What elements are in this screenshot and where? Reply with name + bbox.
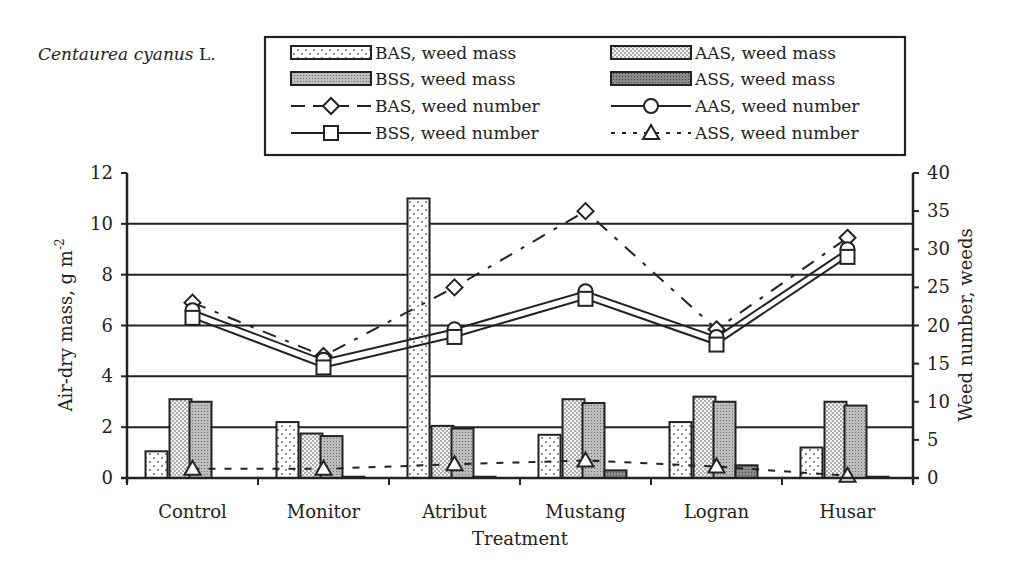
right-tick-label: 35 [927,200,950,221]
circle-marker [644,99,658,113]
legend-item: BAS, weed mass [291,43,516,63]
legend-swatch [611,72,691,85]
legend-label: BAS, weed mass [375,43,516,63]
square-marker [841,250,855,264]
legend-label: ASS, weed mass [694,69,835,89]
category-label: Monitor [287,501,361,522]
axes: 0246810120510152025303540ControlMonitorA… [53,162,976,549]
legend-swatch [291,46,371,59]
diamond-marker [447,279,463,295]
category-label: Logran [684,501,750,522]
legend-swatch [291,72,371,85]
left-tick-label: 2 [102,416,113,437]
left-tick-label: 4 [102,365,113,386]
left-tick-label: 0 [102,467,113,488]
legend-label: BSS, weed mass [375,69,515,89]
square-marker [710,338,724,352]
left-tick-label: 10 [90,213,113,234]
bar [170,399,192,478]
category-label: Control [158,501,227,522]
right-tick-label: 30 [927,238,950,259]
legend-swatch [611,46,691,59]
legend-item: AAS, weed number [611,96,860,116]
line-path [193,249,848,360]
left-tick-label: 6 [102,315,113,336]
legend: BAS, weed massAAS, weed massBSS, weed ma… [265,37,905,155]
legend-label: BAS, weed number [375,96,541,116]
right-tick-label: 15 [927,353,950,374]
square-marker [317,360,331,374]
legend-label: AAS, weed number [694,96,860,116]
category-label: Husar [820,501,876,522]
left-tick-label: 12 [90,162,113,183]
diamond-marker [578,203,594,219]
legend-item: ASS, weed mass [611,69,835,89]
bar [146,451,168,478]
combo-chart: BAS, weed massAAS, weed massBSS, weed ma… [0,0,1016,570]
square-marker [448,330,462,344]
legend-item: AAS, weed mass [611,43,836,63]
right-tick-label: 5 [927,429,938,450]
square-marker [579,292,593,306]
left-tick-label: 8 [102,264,113,285]
right-tick-label: 0 [927,467,938,488]
right-axis-title: Weed number, weeds [955,228,976,422]
right-tick-label: 25 [927,276,950,297]
right-tick-label: 10 [927,391,950,412]
line-path [193,211,848,356]
line-path [193,257,848,368]
right-tick-label: 20 [927,315,950,336]
legend-item: BSS, weed mass [291,69,515,89]
bar [825,402,847,478]
x-axis-title: Treatment [472,528,569,549]
category-label: Atribut [421,501,487,522]
bar [670,422,692,478]
left-axis-title: Air-dry mass, g m-2 [53,238,76,412]
gridlines [127,224,913,427]
square-marker [324,126,338,140]
legend-item: BSS, weed number [291,123,540,143]
bar [539,435,561,478]
bar-series [146,198,889,478]
square-marker [186,311,200,325]
legend-label: ASS, weed number [694,123,859,143]
right-tick-label: 40 [927,162,950,183]
legend-label: AAS, weed mass [694,43,836,63]
legend-label: BSS, weed number [375,123,540,143]
category-label: Mustang [545,501,625,522]
